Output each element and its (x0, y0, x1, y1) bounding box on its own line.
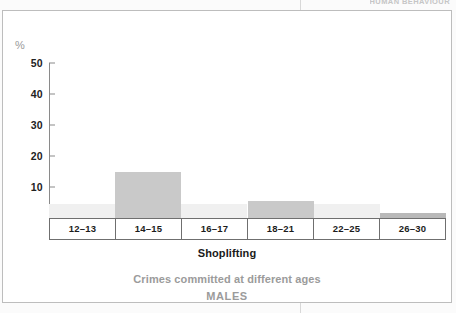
bar (314, 204, 380, 218)
x-axis-category-boxes: 12–1314–1516–1718–2122–2526–30 (49, 218, 446, 240)
x-category-label: 12–13 (50, 218, 116, 239)
figure-panel: % 5040302010 12–1314–1516–1718–2122–2526… (2, 10, 452, 303)
y-tick-label: 10 (3, 181, 43, 193)
bar (49, 204, 115, 218)
bar (181, 204, 247, 218)
bar (248, 201, 314, 218)
x-category-label: 18–21 (248, 218, 314, 239)
x-category-label: 22–25 (314, 218, 380, 239)
page-background: HUMAN BEHAVIOUR % 5040302010 12–1314–151… (0, 0, 456, 313)
y-tick-label: 50 (3, 57, 43, 69)
y-tick-label: 30 (3, 119, 43, 131)
x-axis-title: Shoplifting (3, 247, 451, 259)
x-category-label: 26–30 (380, 218, 445, 239)
x-category-label: 14–15 (116, 218, 182, 239)
x-category-label: 16–17 (182, 218, 248, 239)
running-head: HUMAN BEHAVIOUR (370, 0, 450, 4)
y-tick-label: 20 (3, 150, 43, 162)
plot-area (49, 63, 446, 218)
y-tick-label: 40 (3, 88, 43, 100)
y-axis-unit-label: % (15, 39, 25, 51)
chart-subtitle: Crimes committed at different ages (3, 273, 451, 285)
chart-group-label: MALES (3, 290, 451, 302)
bar (115, 172, 181, 219)
